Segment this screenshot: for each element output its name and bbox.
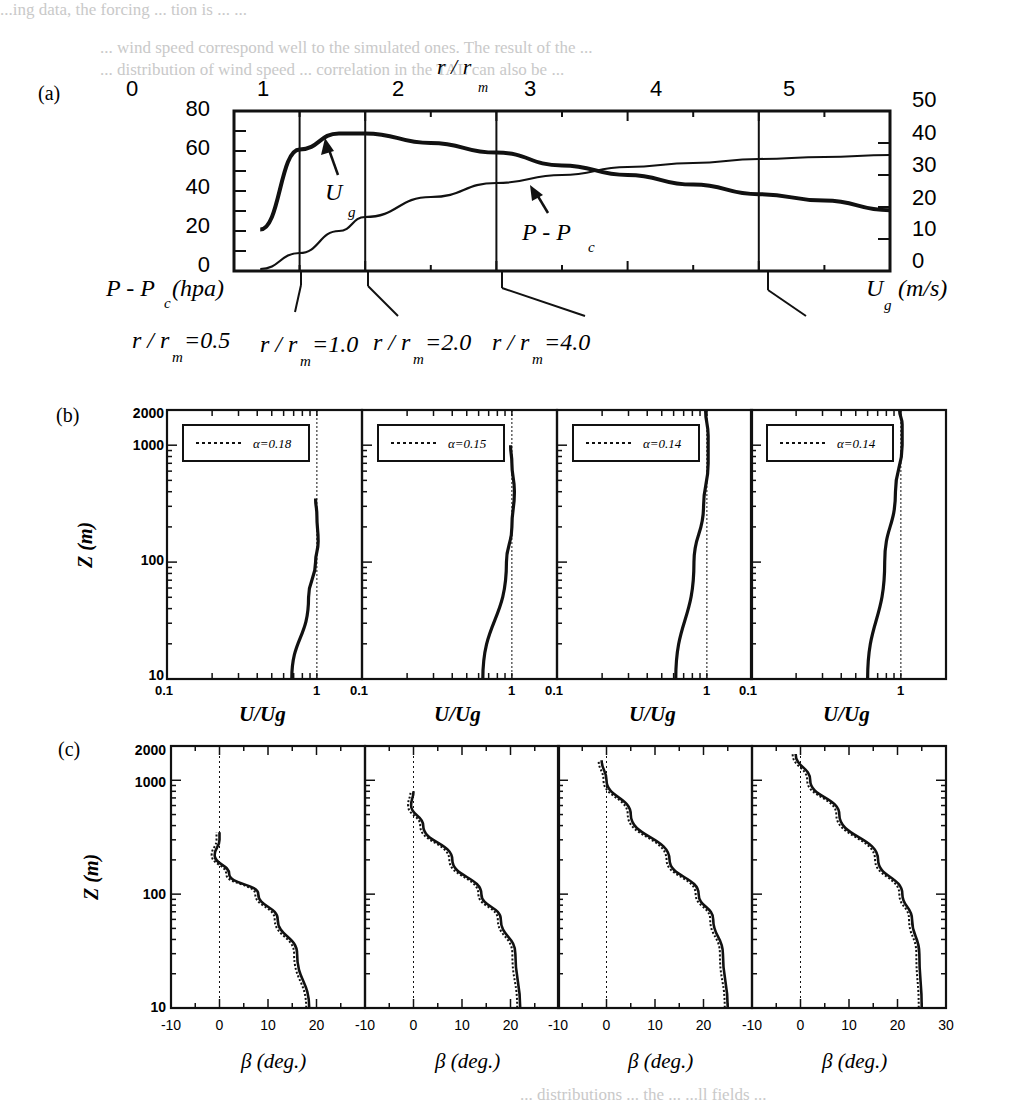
x-tick: 0 bbox=[603, 1017, 611, 1033]
x-tick: 30 bbox=[938, 1017, 954, 1033]
svg-text:=1.0: =1.0 bbox=[312, 331, 358, 357]
top-ticks: 0 1 2 3 4 5 bbox=[126, 76, 795, 101]
inflow-angle-curve bbox=[602, 760, 728, 1008]
svg-text:m: m bbox=[172, 349, 183, 365]
right-axis-label-sub: g bbox=[884, 297, 892, 313]
svg-text:2000: 2000 bbox=[135, 742, 166, 758]
panel-b-y-label: Z (m) bbox=[74, 522, 97, 569]
panel-b-label: (b) bbox=[56, 404, 79, 427]
x-tick: 1 bbox=[313, 683, 320, 698]
x-axis-label: β (deg.) bbox=[627, 1049, 693, 1073]
left-tick: 40 bbox=[186, 174, 210, 199]
ug-annotation-sub: g bbox=[348, 204, 356, 220]
x-axis-label: U/Ug bbox=[239, 702, 286, 726]
legend: α=0.15 bbox=[378, 425, 504, 461]
callout-leaders bbox=[295, 271, 806, 316]
svg-text:=2.0: =2.0 bbox=[425, 329, 471, 355]
left-axis-label-sub: c bbox=[164, 295, 171, 311]
x-axis-label: U/Ug bbox=[629, 702, 676, 726]
right-tick: 10 bbox=[912, 216, 936, 241]
legend-label: α=0.14 bbox=[837, 436, 876, 451]
x-tick: 20 bbox=[309, 1017, 325, 1033]
x-tick: 20 bbox=[503, 1017, 519, 1033]
top-tick: 3 bbox=[524, 76, 536, 101]
x-tick: 1 bbox=[703, 683, 710, 698]
x-tick: 20 bbox=[890, 1017, 906, 1033]
x-tick: 10 bbox=[454, 1017, 470, 1033]
legend-label: α=0.14 bbox=[643, 436, 682, 451]
panel-b-subplot: α=0.150.11U/Ug bbox=[350, 410, 557, 726]
top-tick: 0 bbox=[126, 76, 138, 101]
callout-r05: r / r m =0.5 bbox=[132, 327, 230, 365]
wind-profile-curve bbox=[483, 445, 515, 679]
panel-c-subplot: -1001020β (deg.) bbox=[355, 746, 559, 1073]
panel-c-y-label: Z (m) bbox=[80, 854, 103, 901]
x-tick: 0.1 bbox=[739, 683, 757, 698]
panel-a: (a) r / r m 0 1 2 3 4 5 80 60 40 20 0 50… bbox=[38, 54, 947, 369]
svg-text:r / r: r / r bbox=[492, 329, 530, 355]
callout-r20: r / r m =2.0 bbox=[373, 329, 471, 367]
legend: α=0.18 bbox=[183, 425, 309, 461]
right-tick: 30 bbox=[912, 152, 936, 177]
x-tick: 1 bbox=[508, 683, 515, 698]
x-tick: 0.1 bbox=[350, 683, 368, 698]
inflow-angle-curve bbox=[411, 791, 520, 1008]
svg-text:m: m bbox=[300, 353, 311, 369]
svg-text:r / r: r / r bbox=[132, 327, 170, 353]
top-tick: 4 bbox=[650, 76, 662, 101]
right-axis-label: U bbox=[866, 275, 885, 301]
ug-arrow-icon bbox=[321, 138, 338, 175]
svg-text:1000: 1000 bbox=[135, 774, 166, 790]
panel-c-subplot: -100102030β (deg.) bbox=[742, 746, 954, 1073]
callout-r10: r / r m =1.0 bbox=[260, 331, 358, 369]
svg-text:=0.5: =0.5 bbox=[184, 327, 230, 353]
left-tick: 60 bbox=[186, 135, 210, 160]
panel-c: (c) Z (m) 2000 1000 100 10 -1001020β (de… bbox=[58, 738, 954, 1073]
panel-c-subplot: -1001020β (deg.) bbox=[548, 746, 752, 1073]
left-axis-unit: (hpa) bbox=[172, 275, 224, 301]
inflow-angle-dotted-curve bbox=[408, 791, 517, 1008]
top-axis-title: r / r bbox=[437, 54, 472, 79]
x-tick: -10 bbox=[161, 1017, 181, 1033]
x-tick: 0 bbox=[216, 1017, 224, 1033]
legend-label: α=0.15 bbox=[448, 436, 487, 451]
x-axis-label: β (deg.) bbox=[240, 1049, 306, 1073]
x-tick: -10 bbox=[548, 1017, 568, 1033]
x-tick: 1 bbox=[897, 683, 904, 698]
legend: α=0.14 bbox=[767, 425, 893, 461]
ug-annotation: U bbox=[325, 179, 344, 205]
panel-a-label: (a) bbox=[38, 82, 60, 105]
x-tick: 0 bbox=[797, 1017, 805, 1033]
legend: α=0.14 bbox=[573, 425, 699, 461]
x-tick: 10 bbox=[841, 1017, 857, 1033]
legend-label: α=0.18 bbox=[253, 436, 292, 451]
top-tick: 2 bbox=[392, 76, 404, 101]
right-axis-unit: (m/s) bbox=[898, 275, 947, 301]
svg-text:m: m bbox=[532, 351, 543, 367]
pressure-annotation: P - P bbox=[521, 219, 571, 245]
x-axis-label: β (deg.) bbox=[821, 1049, 887, 1073]
panel-c-y-ticks: 2000 1000 100 10 bbox=[135, 742, 166, 1015]
right-tick: 40 bbox=[912, 120, 936, 145]
top-axis-title-sub: m bbox=[478, 80, 488, 95]
x-tick: 0.1 bbox=[155, 683, 173, 698]
x-tick: -10 bbox=[742, 1017, 762, 1033]
x-tick: 10 bbox=[647, 1017, 663, 1033]
top-tick: 1 bbox=[257, 76, 269, 101]
panel-c-label: (c) bbox=[58, 738, 80, 761]
x-tick: 10 bbox=[260, 1017, 276, 1033]
svg-text:10: 10 bbox=[150, 999, 166, 1015]
svg-text:100: 100 bbox=[141, 552, 165, 568]
svg-text:r / r: r / r bbox=[260, 331, 298, 357]
x-tick: 20 bbox=[696, 1017, 712, 1033]
x-axis-label: U/Ug bbox=[434, 702, 481, 726]
panel-c-subplot: -1001020β (deg.) bbox=[161, 746, 365, 1073]
top-tick: 5 bbox=[783, 76, 795, 101]
left-axis-label: P - P bbox=[105, 275, 155, 301]
left-tick: 80 bbox=[186, 96, 210, 121]
svg-text:=4.0: =4.0 bbox=[544, 329, 590, 355]
right-tick: 20 bbox=[912, 185, 936, 210]
svg-text:10: 10 bbox=[148, 667, 164, 683]
panel-b-y-ticks: 2000 1000 100 10 bbox=[133, 405, 164, 683]
pressure-arrow-icon bbox=[530, 185, 548, 213]
